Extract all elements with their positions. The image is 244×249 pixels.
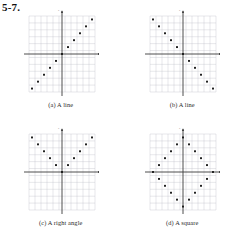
data-point (170, 150, 172, 152)
data-point (49, 67, 51, 69)
data-point (170, 39, 172, 41)
data-point (182, 53, 184, 55)
plot-d: xy (144, 128, 220, 216)
data-point (188, 199, 190, 201)
data-point (158, 25, 160, 27)
data-point (164, 185, 166, 187)
data-point (182, 206, 184, 208)
figure-panel-b: xy (b) A line (122, 8, 244, 126)
data-point (85, 25, 87, 27)
y-axis-label: y (57, 10, 60, 11)
data-point (61, 171, 63, 173)
data-point (164, 32, 166, 34)
data-point (49, 157, 51, 159)
data-point (85, 143, 87, 145)
data-point (55, 164, 57, 166)
y-axis-label: y (179, 128, 182, 129)
data-point (188, 60, 190, 62)
data-point (206, 164, 208, 166)
data-point (43, 150, 45, 152)
data-point (212, 171, 214, 173)
data-point (194, 67, 196, 69)
data-point (158, 164, 160, 166)
data-point (67, 46, 69, 48)
data-point (55, 60, 57, 62)
figure-panel-c: xy (c) A right angle (0, 126, 122, 244)
data-point (188, 143, 190, 145)
data-point (37, 81, 39, 83)
scatter-plot-b: xy (144, 10, 220, 98)
data-point (152, 171, 154, 173)
plot-b: xy (144, 10, 220, 98)
data-point (176, 143, 178, 145)
data-point (164, 157, 166, 159)
data-point (91, 137, 93, 139)
data-point (79, 150, 81, 152)
y-axis-label: y (179, 10, 182, 11)
figure-panel-grid: xy (a) A line xy (b) A line xy (c) A rig… (0, 8, 243, 244)
scatter-plot-d: xy (144, 128, 220, 216)
data-point (182, 137, 184, 139)
data-point (176, 199, 178, 201)
data-point (212, 88, 214, 90)
data-point (158, 178, 160, 180)
data-point (200, 157, 202, 159)
scatter-plot-c: xy (23, 128, 99, 216)
caption-c: (c) A right angle (0, 219, 122, 226)
data-point (61, 53, 63, 55)
caption-b: (b) A line (122, 101, 244, 108)
data-point (79, 32, 81, 34)
data-point (91, 19, 93, 21)
data-point (73, 39, 75, 41)
data-point (200, 185, 202, 187)
data-point (194, 192, 196, 194)
scatter-plot-a: xy (23, 10, 99, 98)
y-axis-label: y (57, 128, 60, 129)
caption-d: (d) A square (122, 219, 244, 226)
figure-panel-d: xy (d) A square (122, 126, 244, 244)
data-point (176, 46, 178, 48)
data-point (31, 137, 33, 139)
data-point (194, 150, 196, 152)
data-point (152, 19, 154, 21)
data-point (170, 192, 172, 194)
data-point (31, 88, 33, 90)
data-point (67, 164, 69, 166)
plot-a: xy (23, 10, 99, 98)
data-point (43, 74, 45, 76)
data-point (37, 143, 39, 145)
data-point (206, 81, 208, 83)
plot-c: xy (23, 128, 99, 216)
data-point (206, 178, 208, 180)
data-point (73, 157, 75, 159)
figure-panel-a: xy (a) A line (0, 8, 122, 126)
caption-a: (a) A line (0, 101, 122, 108)
data-point (200, 74, 202, 76)
